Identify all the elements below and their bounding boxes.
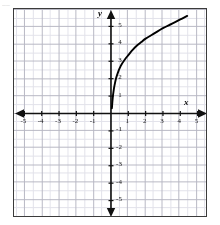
x-tick-label--5: -5 [16,117,30,125]
x-tick-label--4: -4 [34,117,48,125]
y-axis-down-arrow [107,208,115,217]
x-tick-label--3: -3 [51,117,65,125]
plot-svg [14,9,207,217]
y-tick-label-3: 3 [113,56,127,64]
y-tick-label-4: 4 [113,38,127,46]
corner-artifact-text: ▁▁ [2,1,16,6]
axes-group [15,10,207,217]
y-tick-label--1: -1 [112,125,126,133]
x-tick-label-1: 1 [120,117,134,125]
y-tick-label--3: -3 [112,160,126,168]
x-tick-label-4: 4 [172,117,186,125]
x-tick-label--1: -1 [86,117,100,125]
x-tick-label-2: 2 [138,117,152,125]
y-tick-label-1: 1 [113,91,127,99]
y-tick-label--4: -4 [112,178,126,186]
y-tick-label-5: 5 [113,21,127,29]
x-tick-label--2: -2 [68,117,82,125]
x-axis-label: x [184,97,189,107]
coordinate-plane [13,8,207,217]
x-tick-label-5: 5 [190,117,204,125]
graph-screenshot: ▁▁ x y -5-4-3-2-11234554321-1-2-3-4-5 [0,0,220,225]
x-tick-label-3: 3 [155,117,169,125]
y-axis-label: y [98,8,102,18]
y-tick-label--5: -5 [112,195,126,203]
y-tick-label--2: -2 [112,143,126,151]
y-tick-label-2: 2 [113,73,127,81]
y-axis-up-arrow [107,10,115,19]
